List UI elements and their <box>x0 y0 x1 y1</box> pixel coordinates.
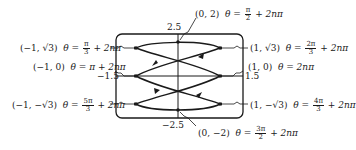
label-lower-left: (−1, −√3) θ = 5π3 + 2nπ <box>12 98 125 113</box>
coord: (1, 0) <box>248 62 272 72</box>
label-upper-left: (−1, √3) θ = π3 + 2nπ <box>20 41 121 56</box>
tick-xmin: −1.5 <box>97 71 119 81</box>
fraction: π3 <box>83 41 90 56</box>
fraction: 3π2 <box>255 126 266 141</box>
label-bottom: (0, −2) θ = 3π2 + 2nπ <box>198 126 298 141</box>
label-mid-right: (1, 0) θ = 2nπ <box>248 62 314 72</box>
theta-eq: θ = <box>235 128 251 138</box>
theta-eq: θ = <box>293 100 309 110</box>
coord: (0, −2) <box>198 128 230 138</box>
theta-suffix: + 2nπ <box>97 100 125 110</box>
tick-ymax: 2.5 <box>167 22 181 32</box>
fraction: π2 <box>245 7 252 22</box>
arrow-icon <box>152 60 158 66</box>
theta-suffix: + 2nπ <box>320 43 348 53</box>
coord: (1, √3) <box>250 43 280 53</box>
label-top: (0, 2) θ = π2 + 2nπ <box>195 7 283 22</box>
theta-eq: θ = <box>286 43 302 53</box>
theta-eq: θ = <box>63 43 79 53</box>
arrow-icon <box>154 88 160 94</box>
coord: (−1, −√3) <box>12 100 57 110</box>
fraction: 4π3 <box>313 98 324 113</box>
theta-eq: θ = π + 2nπ <box>70 62 125 72</box>
theta-suffix: + 2nπ <box>270 128 298 138</box>
label-lower-right: (1, −√3) θ = 4π3 + 2nπ <box>250 98 356 113</box>
coord: (−1, √3) <box>20 43 57 53</box>
fraction: 2π3 <box>305 41 316 56</box>
theta-eq: θ = 2nπ <box>278 62 314 72</box>
theta-eq: θ = <box>225 9 241 19</box>
label-upper-right: (1, √3) θ = 2π3 + 2nπ <box>250 41 348 56</box>
theta-suffix: + 2nπ <box>255 9 283 19</box>
coord: (1, −√3) <box>250 100 287 110</box>
theta-suffix: + 2nπ <box>328 100 356 110</box>
tick-ymin: −2.5 <box>162 120 184 130</box>
theta-eq: θ = <box>63 100 79 110</box>
coord: (0, 2) <box>195 9 219 19</box>
coord: (−1, 0) <box>33 62 65 72</box>
theta-suffix: + 2nπ <box>93 43 121 53</box>
tick-xmax: 1.5 <box>245 71 259 81</box>
fraction: 5π3 <box>82 98 93 113</box>
label-mid-left: (−1, 0) θ = π + 2nπ <box>33 62 126 72</box>
